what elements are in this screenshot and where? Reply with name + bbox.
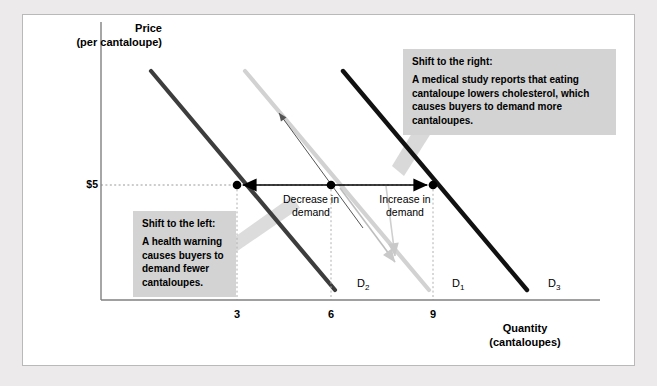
callout-shift-right-body: A medical study reports that eating cant… (412, 73, 607, 127)
callout-shift-right-heading: Shift to the right: (412, 56, 607, 67)
decrease-in-demand-label: Decrease in demand (259, 193, 363, 219)
curve-label-D3-sub: 3 (556, 283, 560, 292)
x-axis-title: Quantity (470, 322, 580, 335)
curve-label-D2: D2 (357, 277, 369, 293)
x-axis-tick-6: 6 (316, 308, 346, 321)
callout-shift-left: Shift to the left: A health warning caus… (133, 211, 236, 297)
curve-label-D2-sub: 2 (365, 283, 369, 292)
y-axis-subtitle: (per cantaloupe) (18, 36, 162, 49)
curve-label-D3-text: D (548, 277, 556, 289)
curve-label-D1-sub: 1 (460, 283, 464, 292)
equilibrium-dot-q9 (429, 181, 438, 190)
callout-shift-left-heading: Shift to the left: (142, 218, 227, 229)
curve-label-D3: D3 (548, 277, 560, 293)
curve-label-D1-text: D (452, 277, 460, 289)
equilibrium-dot-q3 (233, 181, 242, 190)
equilibrium-dot-q6 (327, 181, 336, 190)
y-axis-title: Price (38, 22, 162, 35)
x-axis-tick-3: 3 (222, 308, 252, 321)
curve-D1 (245, 71, 429, 290)
curve-label-D1: D1 (452, 277, 464, 293)
curve-label-D2-text: D (357, 277, 365, 289)
figure-page: Price (per cantaloupe) Quantity (cantalo… (0, 0, 657, 386)
y-axis-tick-5: $5 (64, 178, 98, 190)
increase-in-demand-label: Increase in demand (353, 193, 457, 219)
callout-shift-left-body: A health warning causes buyers to demand… (142, 235, 227, 289)
x-axis-tick-9: 9 (418, 308, 448, 321)
callout-shift-right: Shift to the right: A medical study repo… (403, 49, 616, 135)
x-axis-subtitle: (cantaloupes) (462, 336, 588, 349)
